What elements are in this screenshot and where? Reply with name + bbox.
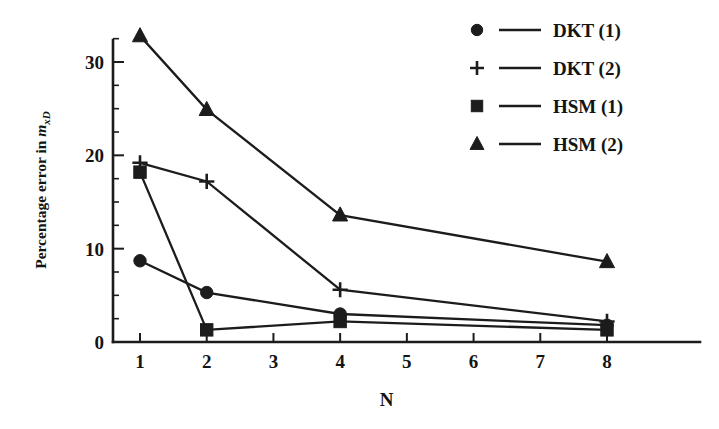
marker-square xyxy=(601,324,613,336)
marker-square xyxy=(134,166,146,178)
marker-square xyxy=(471,100,482,111)
legend-item: DKT (1) xyxy=(471,20,620,42)
x-axis-tick-label: 7 xyxy=(536,351,546,372)
x-axis-tick-label: 1 xyxy=(135,351,145,372)
legend-item-label: DKT (1) xyxy=(553,20,621,42)
marker-square xyxy=(201,324,213,336)
y-axis-tick-labels: 0102030 xyxy=(85,52,104,353)
marker-triangle xyxy=(333,207,348,221)
marker-triangle xyxy=(470,136,484,149)
y-axis-tick-label: 20 xyxy=(85,145,104,166)
series-line xyxy=(140,172,607,330)
data-series xyxy=(132,28,614,268)
y-axis-tick-label: 0 xyxy=(95,332,105,353)
chart-legend: DKT (1)DKT (2)HSM (1)HSM (2) xyxy=(470,20,623,156)
y-axis-tick-label: 30 xyxy=(85,52,104,73)
x-axis-tick-labels: 12345678 xyxy=(135,351,612,372)
series-line xyxy=(140,36,607,262)
line-chart: 0102030 12345678 N Percentage error in m… xyxy=(0,0,719,429)
data-series xyxy=(132,155,614,329)
data-series-group xyxy=(132,28,614,336)
x-axis-tick-label: 2 xyxy=(202,351,212,372)
x-axis-tick-label: 6 xyxy=(469,351,479,372)
legend-item: DKT (2) xyxy=(470,58,621,80)
marker-plus xyxy=(470,61,484,75)
y-axis-tick-label: 10 xyxy=(85,239,104,260)
legend-item: HSM (1) xyxy=(471,96,623,118)
y-axis-title-symbol: m xyxy=(32,125,49,137)
legend-item-label: HSM (1) xyxy=(553,96,623,118)
y-axis-title-subscript: xD xyxy=(40,111,52,126)
x-axis-title: N xyxy=(380,389,394,410)
y-axis-title: Percentage error in mxD xyxy=(32,111,52,269)
marker-circle xyxy=(201,286,213,298)
marker-triangle xyxy=(132,28,147,42)
x-axis-tick-label: 3 xyxy=(269,351,279,372)
legend-item-label: HSM (2) xyxy=(553,134,623,156)
marker-circle xyxy=(471,24,482,35)
legend-item: HSM (2) xyxy=(470,134,623,156)
x-axis-tick-label: 5 xyxy=(402,351,412,372)
chart-figure: 0102030 12345678 N Percentage error in m… xyxy=(0,0,719,429)
legend-item-label: DKT (2) xyxy=(553,58,621,80)
marker-circle xyxy=(134,255,146,267)
marker-square xyxy=(334,315,346,327)
y-axis-title-prefix: Percentage error in xyxy=(32,137,49,269)
x-axis-tick-label: 4 xyxy=(335,351,345,372)
x-axis-tick-label: 8 xyxy=(602,351,612,372)
svg-text:Percentage error in mxD: Percentage error in mxD xyxy=(32,111,52,269)
